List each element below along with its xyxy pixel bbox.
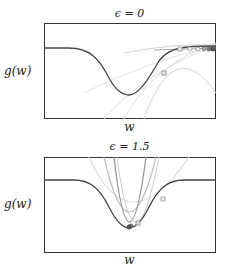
- step-point: [188, 47, 192, 51]
- y-axis-label: g(w): [4, 197, 31, 211]
- step-point: [127, 225, 131, 229]
- plot-panel-eps-0: ϵ = 0 g(w) w: [0, 0, 229, 133]
- x-axis-label: w: [44, 253, 215, 266]
- step-point: [161, 197, 165, 201]
- plot-area: [44, 23, 216, 119]
- plot-title: ϵ = 1.5: [44, 140, 215, 153]
- function-curve: [44, 180, 216, 228]
- step-point: [207, 47, 211, 51]
- plot-panel-eps-1-5: ϵ = 1.5 g(w) w: [0, 133, 229, 266]
- plot-area: [44, 157, 216, 253]
- step-point: [162, 71, 166, 75]
- step-point: [196, 47, 200, 51]
- plot-frame: [45, 158, 216, 253]
- plot-frame: [45, 24, 216, 119]
- x-axis-label: w: [44, 120, 215, 134]
- step-point: [211, 47, 215, 51]
- step-point: [178, 47, 182, 51]
- step-point: [202, 47, 206, 51]
- y-axis-label: g(w): [4, 64, 31, 78]
- step-point: [136, 221, 140, 225]
- plot-title: ϵ = 0: [44, 7, 215, 20]
